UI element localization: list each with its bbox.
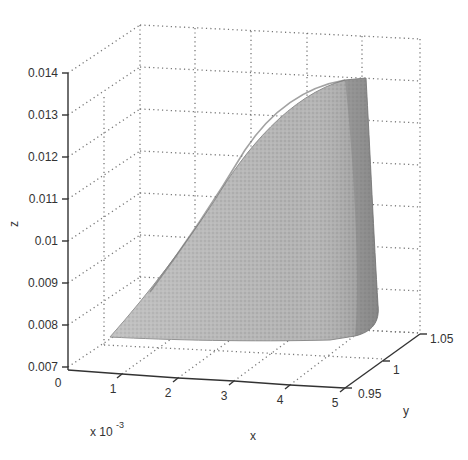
x-axis-label: x — [250, 429, 256, 443]
svg-text:1: 1 — [110, 382, 117, 396]
svg-text:0.009: 0.009 — [28, 276, 58, 290]
y-tick-labels: 0.95 1 1.05 — [358, 332, 454, 401]
x-tick-labels: 0 1 2 3 4 5 — [55, 376, 339, 410]
svg-text:0.01: 0.01 — [35, 234, 59, 248]
y-axis-line — [345, 334, 420, 388]
svg-text:0.014: 0.014 — [28, 66, 58, 80]
svg-text:x 10: x 10 — [90, 425, 113, 439]
svg-text:2: 2 — [165, 386, 172, 400]
svg-text:0.008: 0.008 — [28, 318, 58, 332]
surface-mesh — [110, 78, 378, 341]
z-ticks — [62, 73, 68, 367]
svg-text:0.011: 0.011 — [29, 192, 58, 206]
svg-text:0: 0 — [55, 376, 62, 390]
svg-text:0.013: 0.013 — [28, 108, 58, 122]
x-multiplier-label: x 10 -3 — [90, 420, 124, 439]
svg-text:3: 3 — [221, 389, 228, 403]
svg-text:1: 1 — [393, 363, 400, 377]
svg-text:0.95: 0.95 — [358, 387, 382, 401]
z-axis-label: z — [7, 221, 21, 227]
svg-text:5: 5 — [332, 396, 339, 410]
svg-text:1.05: 1.05 — [430, 332, 454, 346]
z-tick-labels: 0.014 0.013 0.012 0.011 0.01 0.009 0.008… — [28, 66, 58, 374]
y-axis-label: y — [403, 404, 409, 418]
svg-text:0.007: 0.007 — [28, 360, 58, 374]
svg-text:-3: -3 — [116, 420, 124, 430]
surface-plot-3d: 0.014 0.013 0.012 0.011 0.01 0.009 0.008… — [0, 0, 468, 460]
svg-text:0.012: 0.012 — [28, 150, 58, 164]
svg-text:4: 4 — [277, 393, 284, 407]
